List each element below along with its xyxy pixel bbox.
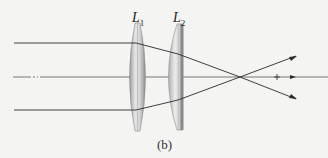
ray-diagram-svg xyxy=(0,0,328,158)
figure-caption: (b) xyxy=(157,138,172,151)
lens-l1-label-main: L xyxy=(132,10,140,25)
arrow-axis-icon xyxy=(290,75,296,79)
light-rays xyxy=(14,43,296,110)
lens-l2-label: L2 xyxy=(173,11,185,28)
arrow-up-icon xyxy=(289,56,297,61)
ray-bottom xyxy=(14,56,296,110)
lens-l1-label: L1 xyxy=(132,11,144,28)
ray-top xyxy=(14,43,296,99)
focal-point-marker xyxy=(274,74,280,80)
lens-l1-label-sub: 1 xyxy=(140,18,145,28)
arrow-down-icon xyxy=(289,94,297,99)
lens-l2-label-main: L xyxy=(173,10,181,25)
lens-l2 xyxy=(169,23,184,131)
arrowheads xyxy=(289,56,297,99)
lens-l2-label-sub: 2 xyxy=(181,18,186,28)
optics-diagram: L1 L2 (b) xyxy=(0,0,328,158)
lens-l1 xyxy=(130,22,146,132)
